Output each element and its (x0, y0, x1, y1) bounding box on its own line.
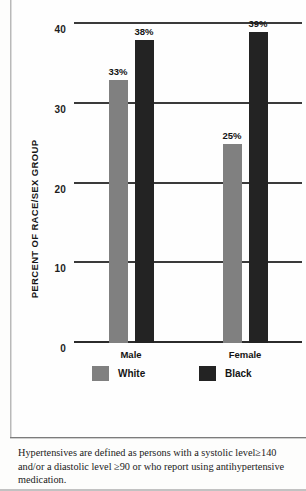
chart-legend: WhiteBlack (74, 366, 302, 386)
legend-item: White (92, 366, 145, 381)
chart-panel: PERCENT OF RACE/SEX GROUP 01020304033%38… (12, 0, 306, 437)
x-axis-group-label: Male (120, 349, 141, 360)
scanned-page: PERCENT OF RACE/SEX GROUP 01020304033%38… (0, 0, 306, 491)
legend-swatch (199, 366, 216, 381)
bar-value-label: 38% (134, 26, 153, 37)
bar: 33% (109, 80, 128, 343)
bar-value-label: 33% (108, 66, 127, 77)
legend-swatch (92, 366, 109, 381)
footnote-text: Hypertensives are defined as persons wit… (18, 446, 298, 487)
y-axis-title: PERCENT OF RACE/SEX GROUP (29, 139, 40, 298)
bar-fill (135, 40, 154, 343)
gridline (74, 22, 302, 24)
bar: 38% (135, 40, 154, 343)
bar-fill (223, 144, 242, 343)
bar-value-label: 25% (222, 130, 241, 141)
legend-label: Black (225, 368, 252, 379)
bar-value-label: 39% (248, 18, 267, 29)
bar: 25% (223, 144, 242, 343)
bar-fill (109, 80, 128, 343)
bar-fill (249, 32, 268, 343)
plot-area: 01020304033%38%Male25%39%Female (74, 24, 302, 343)
footnote-divider-shadow (10, 438, 306, 439)
legend-label: White (118, 368, 145, 379)
x-axis-group-label: Female (229, 349, 262, 360)
bar: 39% (249, 32, 268, 343)
legend-item: Black (199, 366, 252, 381)
